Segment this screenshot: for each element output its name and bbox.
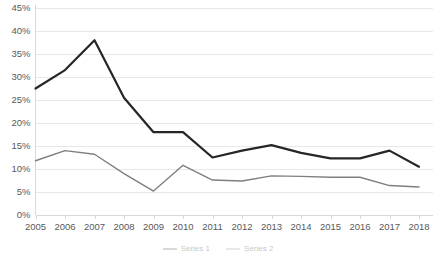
line-chart: 45%40%35%30%25%20%15%10%5%0% 20052006200… — [0, 0, 436, 256]
series-line-1 — [36, 40, 420, 167]
x-tick-label: 2008 — [110, 222, 138, 232]
y-tick-label: 0% — [17, 210, 31, 220]
x-tick-label: 2016 — [346, 222, 374, 232]
y-tick-label: 20% — [11, 118, 30, 128]
y-tick-label: 25% — [11, 95, 30, 105]
axis-lines — [36, 5, 434, 215]
x-tick-label: 2018 — [405, 222, 433, 232]
gridlines — [36, 8, 434, 192]
legend-swatch-icon — [163, 248, 177, 250]
x-tick-label: 2005 — [22, 222, 50, 232]
y-tick-label: 45% — [11, 3, 30, 13]
x-tick-label: 2014 — [287, 222, 315, 232]
x-axis-ticks — [37, 215, 420, 219]
x-tick-label: 2010 — [169, 222, 197, 232]
y-tick-label: 30% — [11, 72, 30, 82]
x-tick-label: 2015 — [317, 222, 345, 232]
x-tick-label: 2011 — [199, 222, 227, 232]
y-tick-label: 40% — [11, 26, 30, 36]
y-tick-label: 15% — [11, 141, 30, 151]
legend-item[interactable]: Series 1 — [163, 244, 210, 253]
x-tick-label: 2009 — [140, 222, 168, 232]
chart-legend: Series 1Series 2 — [0, 244, 436, 253]
x-tick-label: 2013 — [258, 222, 286, 232]
legend-label: Series 2 — [244, 244, 273, 253]
y-tick-label: 35% — [11, 49, 30, 59]
x-tick-label: 2006 — [51, 222, 79, 232]
x-tick-label: 2007 — [81, 222, 109, 232]
legend-swatch-icon — [226, 248, 240, 250]
plot-area — [0, 0, 436, 256]
y-tick-label: 5% — [17, 187, 31, 197]
series-line-2 — [36, 151, 420, 191]
y-tick-label: 10% — [11, 164, 30, 174]
x-tick-label: 2017 — [376, 222, 404, 232]
x-tick-label: 2012 — [228, 222, 256, 232]
series-lines — [36, 40, 420, 191]
legend-label: Series 1 — [181, 244, 210, 253]
legend-item[interactable]: Series 2 — [226, 244, 273, 253]
